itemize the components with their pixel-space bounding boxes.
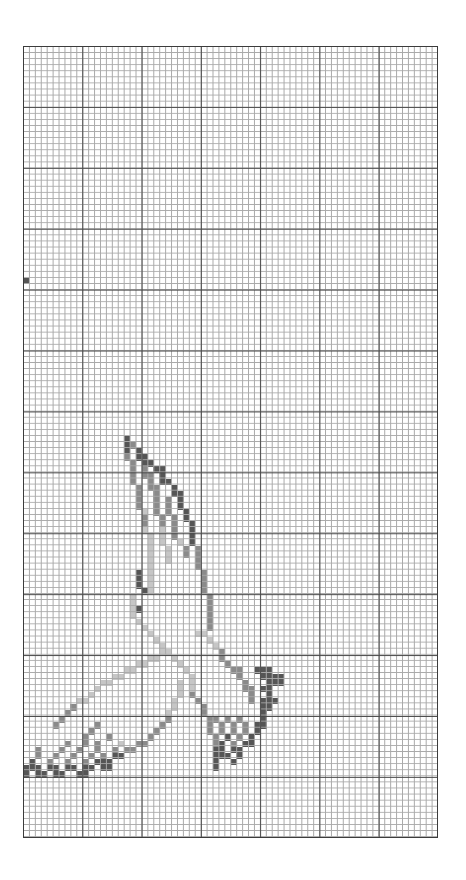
pattern-cell xyxy=(148,655,154,662)
pattern-cell xyxy=(94,722,100,729)
pattern-cell xyxy=(88,765,94,772)
pattern-cell xyxy=(130,667,136,674)
pattern-cell xyxy=(118,741,124,748)
pattern-cell xyxy=(153,655,159,662)
pattern-cells-layer xyxy=(23,46,438,838)
pattern-cell xyxy=(159,649,165,656)
pattern-cell xyxy=(65,710,71,717)
pattern-cell xyxy=(136,606,142,613)
pattern-cell xyxy=(136,741,142,748)
pattern-cell xyxy=(231,747,237,754)
pattern-cell xyxy=(65,741,71,748)
pattern-cell xyxy=(112,747,118,754)
pattern-cell xyxy=(53,722,59,729)
pattern-cell xyxy=(242,728,248,735)
pattern-cell xyxy=(236,734,242,741)
pattern-cell xyxy=(165,558,171,565)
pattern-cell xyxy=(254,728,260,735)
pattern-cell xyxy=(76,747,82,754)
pattern-cell xyxy=(231,759,237,766)
pattern-cell xyxy=(23,278,29,285)
pattern-cell xyxy=(88,728,94,735)
pattern-cell xyxy=(76,698,82,705)
pattern-cell xyxy=(171,704,177,711)
cross-stitch-pattern-grid xyxy=(23,46,438,838)
pattern-cell xyxy=(260,722,266,729)
pattern-cell xyxy=(82,771,88,778)
pattern-cell xyxy=(70,704,76,711)
pattern-cell xyxy=(100,680,106,687)
pattern-cell xyxy=(53,753,59,760)
pattern-cell xyxy=(35,753,41,760)
pattern-cell xyxy=(207,625,213,632)
pattern-cell xyxy=(278,680,284,687)
pattern-cell xyxy=(248,741,254,748)
pattern-cell xyxy=(248,698,254,705)
pattern-cell xyxy=(177,692,183,699)
pattern-cell xyxy=(94,686,100,693)
pattern-cell xyxy=(100,753,106,760)
pattern-cell xyxy=(165,716,171,723)
pattern-cell xyxy=(142,741,148,748)
pattern-cell xyxy=(23,771,29,778)
pattern-cell xyxy=(142,661,148,668)
pattern-cell xyxy=(59,771,65,778)
pattern-cell xyxy=(106,765,112,772)
pattern-cell xyxy=(70,753,76,760)
pattern-cell xyxy=(82,741,88,748)
pattern-cell xyxy=(106,680,112,687)
pattern-cell xyxy=(136,661,142,668)
pattern-cell xyxy=(59,716,65,723)
pattern-cell xyxy=(59,747,65,754)
pattern-cell xyxy=(266,704,272,711)
pattern-cell xyxy=(148,734,154,741)
pattern-cell xyxy=(124,747,130,754)
pattern-cell xyxy=(88,692,94,699)
pattern-cell xyxy=(41,771,47,778)
pattern-cell xyxy=(112,674,118,681)
pattern-cell xyxy=(130,747,136,754)
pattern-cell xyxy=(124,667,130,674)
pattern-cell xyxy=(183,552,189,559)
pattern-cell xyxy=(213,765,219,772)
pattern-cell xyxy=(118,753,124,760)
pattern-cell xyxy=(112,753,118,760)
pattern-cell xyxy=(159,722,165,729)
pattern-cell xyxy=(153,728,159,735)
pattern-cell xyxy=(118,674,124,681)
pattern-cell xyxy=(106,734,112,741)
pattern-cell xyxy=(148,588,154,595)
pattern-cell xyxy=(236,753,242,760)
pattern-cell xyxy=(272,698,278,705)
pattern-cell xyxy=(82,698,88,705)
